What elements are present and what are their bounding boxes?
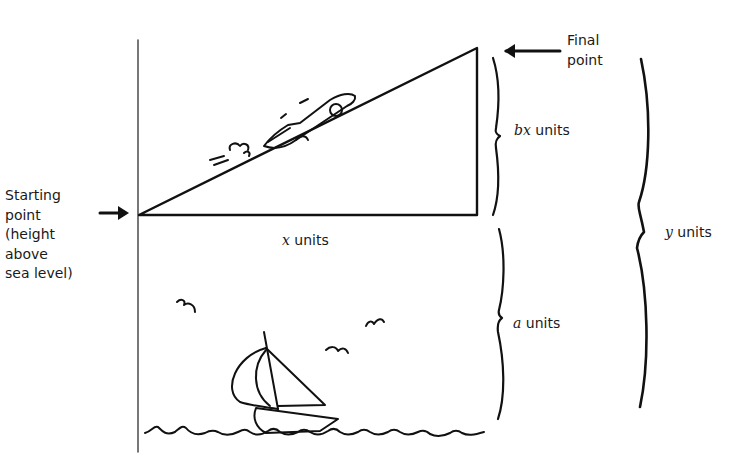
bird-icon — [177, 300, 195, 312]
starting-point-label: Starting point (height above sea level) — [5, 186, 73, 284]
x-variable: x — [282, 232, 290, 248]
a-units-label: a units — [513, 314, 560, 333]
bird-icon — [326, 347, 348, 353]
slope-diagram: Starting point (height above sea level) … — [0, 0, 739, 471]
y-units-label: y units — [665, 223, 712, 242]
bx-units-label: bx units — [514, 121, 570, 140]
y-suffix: units — [673, 224, 712, 240]
bird-icon — [366, 319, 384, 326]
x-units-label: x units — [282, 231, 329, 250]
a-suffix: units — [521, 315, 560, 331]
y-variable: y — [665, 224, 673, 240]
sailboat-icon — [232, 332, 338, 433]
brace-icon — [637, 59, 648, 407]
final-point-label: Final point — [567, 30, 603, 70]
arrow-left-icon — [504, 44, 560, 58]
arrow-right-icon — [100, 206, 129, 220]
brace-icon — [493, 58, 500, 215]
car-icon — [210, 94, 355, 165]
bx-suffix: units — [531, 122, 570, 138]
x-suffix: units — [290, 232, 329, 248]
bx-variable: bx — [514, 122, 531, 138]
brace-icon — [498, 229, 504, 419]
diagram-canvas — [0, 0, 739, 471]
